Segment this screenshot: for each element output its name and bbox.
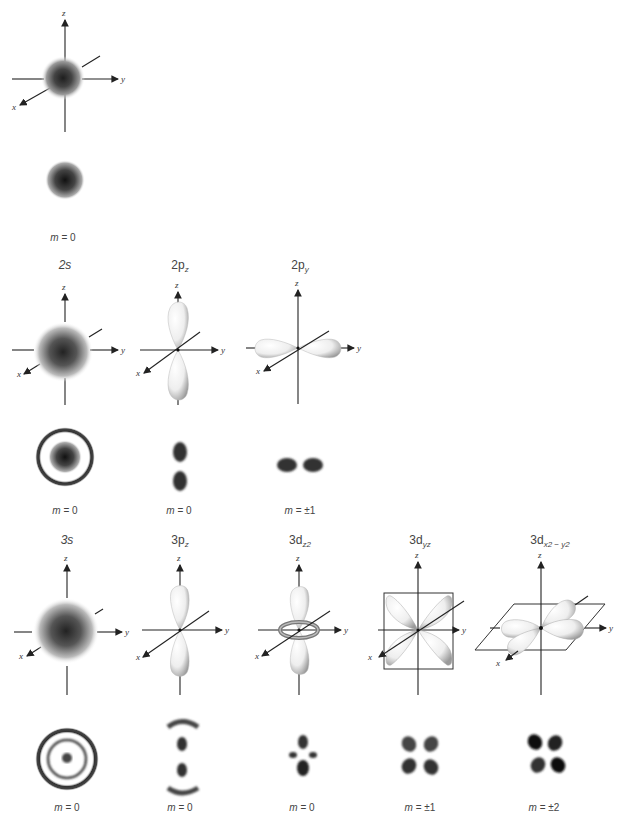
m-label-3dx2y2: m = ±2 xyxy=(529,802,560,813)
orbital-3pz-3d: z y x xyxy=(135,553,229,695)
m-value: = 0 xyxy=(300,802,314,813)
orbital-3dx2y2-density xyxy=(525,732,568,776)
svg-text:x: x xyxy=(254,651,259,661)
m-value: = ±2 xyxy=(540,802,560,813)
title-2pz: 2pz xyxy=(171,258,188,274)
title-main: 3d xyxy=(289,533,302,547)
orbital-1s-3d: z y x xyxy=(11,8,125,132)
m-value: = 0 xyxy=(61,232,75,243)
svg-text:x: x xyxy=(16,369,21,379)
m-var: m xyxy=(529,802,537,813)
title-main: 3p xyxy=(171,533,184,547)
svg-text:x: x xyxy=(135,652,140,662)
title-main: 2p xyxy=(291,258,304,272)
title-3dz2: 3dz2 xyxy=(289,533,311,549)
svg-text:y: y xyxy=(356,343,361,353)
m-var: m xyxy=(167,802,175,813)
orbital-2py-3d: z y x xyxy=(246,278,361,404)
orbital-3s-density xyxy=(35,727,99,791)
m-label-1s: m = 0 xyxy=(50,232,75,243)
1s-sphere xyxy=(41,56,85,100)
orbital-2py-density xyxy=(277,458,323,472)
m-label-3s: m = 0 xyxy=(54,802,79,813)
title-sub: y xyxy=(305,265,309,274)
orbital-2s-density xyxy=(35,427,95,487)
title-sub: z2 xyxy=(302,540,310,549)
title-sub: z xyxy=(185,540,189,549)
svg-text:x: x xyxy=(255,366,260,376)
orbital-3dz2-density xyxy=(289,735,317,776)
title-2py: 2py xyxy=(291,258,308,274)
svg-text:y: y xyxy=(120,345,125,355)
title-sub: yz xyxy=(423,540,431,549)
orbital-3s-3d: z y x xyxy=(14,553,129,695)
title-3pz: 3pz xyxy=(171,533,188,549)
svg-text:y: y xyxy=(461,625,466,635)
m-label-2py: m = ±1 xyxy=(285,505,316,516)
svg-text:y: y xyxy=(224,625,229,635)
title-2s: 2s xyxy=(59,258,72,272)
svg-text:y: y xyxy=(124,627,129,637)
orbital-3dyz-3d: z y x xyxy=(367,550,466,695)
svg-text:y: y xyxy=(343,625,348,635)
1s-density xyxy=(45,160,85,200)
orbital-2pz-3d: z y x xyxy=(135,280,225,405)
title-main: 2s xyxy=(59,258,72,272)
m-var: m xyxy=(166,505,174,516)
title-sub: x2 − y2 xyxy=(544,540,570,549)
m-var: m xyxy=(50,232,58,243)
m-var: m xyxy=(54,802,62,813)
svg-text:z: z xyxy=(61,282,66,292)
title-3dyz: 3dyz xyxy=(409,533,430,549)
orbital-3dyz-density xyxy=(399,734,441,778)
m-var: m xyxy=(285,505,293,516)
svg-text:z: z xyxy=(414,550,419,560)
m-label-2s: m = 0 xyxy=(52,505,77,516)
svg-text:z: z xyxy=(63,553,68,563)
m-label-3pz: m = 0 xyxy=(167,802,192,813)
svg-text:y: y xyxy=(608,623,613,633)
svg-text:x: x xyxy=(135,368,140,378)
m-value: = 0 xyxy=(177,505,191,516)
svg-text:x: x xyxy=(495,658,500,668)
z-axis-label: z xyxy=(61,8,66,18)
m-value: = 0 xyxy=(63,505,77,516)
orbital-2pz-density xyxy=(173,442,187,491)
title-sub: z xyxy=(185,265,189,274)
orbital-3dx2y2-3d: z y x xyxy=(475,550,613,695)
m-value: = ±1 xyxy=(296,505,316,516)
svg-text:x: x xyxy=(18,651,23,661)
orbital-figure-canvas: z y x z y x z y x xyxy=(0,0,623,819)
svg-text:z: z xyxy=(174,280,179,290)
svg-text:x: x xyxy=(367,652,372,662)
orbital-3dz2-3d: z y x xyxy=(254,553,348,695)
y-axis-label: y xyxy=(120,74,125,84)
svg-text:y: y xyxy=(220,345,225,355)
m-label-2pz: m = 0 xyxy=(166,505,191,516)
title-3dx2y2: 3dx2 − y2 xyxy=(530,533,569,549)
m-var: m xyxy=(405,802,413,813)
m-value: = 0 xyxy=(178,802,192,813)
svg-text:z: z xyxy=(176,553,181,563)
m-var: m xyxy=(52,505,60,516)
title-main: 3s xyxy=(61,533,74,547)
m-label-3dz2: m = 0 xyxy=(289,802,314,813)
title-main: 3d xyxy=(530,533,543,547)
title-main: 3d xyxy=(409,533,422,547)
svg-text:z: z xyxy=(537,550,542,560)
title-main: 2p xyxy=(171,258,184,272)
m-value: = ±1 xyxy=(416,802,436,813)
m-label-3dyz: m = ±1 xyxy=(405,802,436,813)
svg-text:z: z xyxy=(294,278,299,288)
m-value: = 0 xyxy=(65,802,79,813)
m-var: m xyxy=(289,802,297,813)
x-axis-label: x xyxy=(11,102,16,112)
orbital-3pz-density xyxy=(168,722,198,794)
2s-sphere xyxy=(33,322,93,382)
title-3s: 3s xyxy=(61,533,74,547)
svg-text:z: z xyxy=(295,553,300,563)
orbital-2s-3d: z y x xyxy=(12,282,125,405)
